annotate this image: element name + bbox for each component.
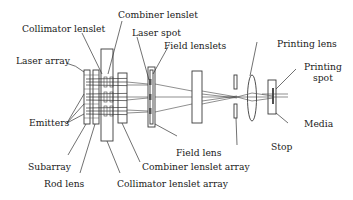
- stop-lower: [234, 104, 237, 118]
- emitter-beam: [86, 85, 127, 86]
- printing-lens: [248, 75, 257, 121]
- label-collimator-lenslet: Collimator lenslet: [22, 23, 105, 34]
- label-field-lenslets: Field lenslets: [164, 40, 227, 51]
- laser-spot-mark: [149, 94, 152, 100]
- laser-spot-mark: [149, 108, 152, 114]
- label-subarray: Subarray: [28, 161, 72, 172]
- label-printing-spot-1: Printing: [304, 61, 342, 72]
- emitter-beam: [86, 100, 127, 101]
- label-combiner-lenslet-array: Combiner lenslet array: [142, 161, 250, 172]
- combiner-lenslet-array: [118, 73, 127, 123]
- laser-spot-mark: [149, 79, 152, 85]
- label-printing-lens: Printing lens: [277, 38, 337, 49]
- emitter-beam: [86, 93, 127, 94]
- stop-upper: [234, 75, 237, 89]
- label-emitters: Emitters: [29, 117, 70, 128]
- label-field-lens: Field lens: [176, 147, 222, 158]
- label-combiner-lenslet: Combiner lenslet: [118, 9, 198, 20]
- label-laser-array: Laser array: [16, 55, 71, 66]
- emitter-beam: [86, 78, 127, 79]
- label-collimator-lenslet-array: Collimator lenslet array: [117, 178, 229, 189]
- label-laser-spot: Laser spot: [132, 27, 181, 38]
- optical-system-diagram: Collimator lenslet Combiner lenslet Lase…: [0, 0, 353, 200]
- label-rod-lens: Rod lens: [44, 178, 85, 189]
- label-printing-spot-2: spot: [313, 72, 333, 83]
- emitter-beam: [86, 107, 127, 108]
- emitter-beam: [86, 114, 127, 115]
- label-media: Media: [304, 118, 334, 129]
- field-lens: [192, 71, 202, 123]
- label-stop: Stop: [271, 141, 293, 152]
